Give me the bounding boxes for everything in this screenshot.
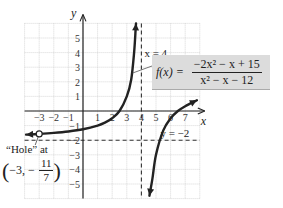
y-tick-label: −4 xyxy=(69,164,80,175)
formula-denominator: x² − x − 12 xyxy=(200,73,253,87)
y-tick-label: 5 xyxy=(75,33,80,44)
hole-frac-num: 11 xyxy=(39,158,54,171)
curve-arrow-icon xyxy=(26,131,33,138)
function-formula: f(x) = −2x² − x + 15 x² − x − 12 xyxy=(156,55,262,90)
y-tick-label: −2 xyxy=(69,135,80,146)
x-tick-label: −3 xyxy=(34,112,45,123)
hole-frac-den: 7 xyxy=(43,171,49,183)
x-tick-label: 3 xyxy=(124,112,129,123)
x-tick-label: −2 xyxy=(48,112,59,123)
x-tick-label: 7 xyxy=(183,112,188,123)
close-paren: ) xyxy=(53,160,60,182)
hole-coord-prefix: −3, − xyxy=(9,163,35,178)
x-tick-label: 5 xyxy=(154,112,159,123)
function-formula-box: f(x) = −2x² − x + 15 x² − x − 12 xyxy=(152,55,270,90)
horizontal-asymptote-label: y = −2 xyxy=(160,127,189,139)
formula-fraction: −2x² − x + 15 x² − x − 12 xyxy=(192,58,262,87)
open-paren: ( xyxy=(2,160,9,182)
hole-marker-icon xyxy=(36,131,42,137)
hole-fraction: 11 7 xyxy=(39,158,54,183)
y-tick-label: −3 xyxy=(69,150,80,161)
y-tick-label: −5 xyxy=(69,179,80,190)
x-tick-label: 4 xyxy=(139,112,144,123)
formula-numerator: −2x² − x + 15 xyxy=(192,58,262,73)
curve-arrow-icon xyxy=(132,23,139,30)
y-tick-label: 1 xyxy=(75,91,80,102)
y-tick-label: 4 xyxy=(75,48,80,59)
y-axis-label: y xyxy=(70,6,77,20)
formula-lhs: f(x) = xyxy=(156,65,184,80)
y-tick-label: 2 xyxy=(75,77,80,88)
hole-label: “Hole” at xyxy=(6,143,48,156)
hole-coordinates: ( −3, − 11 7 ) xyxy=(2,158,61,183)
y-tick-label: 3 xyxy=(75,62,80,73)
x-tick-label: 1 xyxy=(95,112,100,123)
x-axis-label: x xyxy=(200,114,207,128)
